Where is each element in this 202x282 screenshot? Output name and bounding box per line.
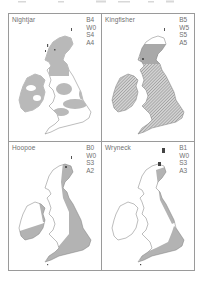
- code-autumn: A2: [86, 167, 96, 175]
- status-codes: B0 W0 S3 A2: [86, 144, 96, 174]
- status-codes: B5 W5 S5 A5: [179, 16, 189, 46]
- code-spring: S3: [86, 159, 96, 167]
- map-panel-wryneck: Wryneck B1 W0 S3 A3: [102, 142, 194, 270]
- code-autumn: A3: [179, 167, 189, 175]
- status-codes: B1 W0 S3 A3: [179, 144, 189, 174]
- code-breeding: B0: [86, 144, 96, 152]
- species-name: Hoopoe: [12, 144, 35, 151]
- species-name: Nightjar: [12, 16, 35, 23]
- code-breeding: B5: [179, 16, 189, 24]
- code-winter: W0: [179, 152, 189, 160]
- map-figure-frame: Nightjar B4 W0 S4 A4 Kingfisher B5 W5 S5…: [8, 13, 195, 271]
- map-panel-nightjar: Nightjar B4 W0 S4 A4: [9, 14, 102, 142]
- map-panel-hoopoe: Hoopoe B0 W0 S3 A2: [9, 142, 102, 270]
- code-autumn: A4: [86, 39, 96, 47]
- code-winter: W0: [86, 24, 96, 32]
- code-spring: S3: [179, 159, 189, 167]
- code-spring: S4: [86, 31, 96, 39]
- code-breeding: B1: [179, 144, 189, 152]
- code-autumn: A5: [179, 39, 189, 47]
- code-winter: W5: [179, 24, 189, 32]
- species-name: Kingfisher: [105, 16, 135, 23]
- code-winter: W0: [86, 152, 96, 160]
- clipped-previous-text: [18, 0, 188, 4]
- species-name: Wryneck: [105, 144, 131, 151]
- status-codes: B4 W0 S4 A4: [86, 16, 96, 46]
- code-spring: S5: [179, 31, 189, 39]
- map-panel-kingfisher: Kingfisher B5 W5 S5 A5: [102, 14, 194, 142]
- code-breeding: B4: [86, 16, 96, 24]
